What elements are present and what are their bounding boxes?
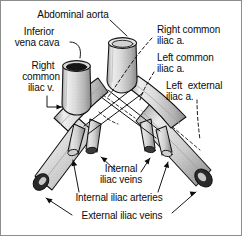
label-right-common-iliac-v-line1: Right	[12, 60, 74, 71]
label-external-iliac-veins: External iliac veins	[64, 210, 180, 221]
label-right-common-iliac-a-line2: iliac a.	[157, 35, 185, 46]
leader-left-external-iliac-a	[197, 100, 200, 140]
label-internal-iliac-arteries: Internal iliac arteries	[55, 192, 183, 203]
label-left-external-iliac-a-line2: iliac a.	[166, 91, 194, 102]
label-inferior-vena-cava-line1: Inferior	[8, 26, 70, 37]
label-internal-iliac-veins-line1: Internal	[95, 163, 147, 174]
anatomy-figure: Abdominal aorta Inferior vena cava Right…	[0, 0, 243, 237]
label-left-common-iliac-a-line2: iliac a.	[157, 63, 185, 74]
label-right-common-iliac-a-line1: Right common	[157, 24, 220, 35]
leader-right-common-iliac-v	[47, 96, 62, 107]
leader-abdominal-aorta	[110, 20, 127, 36]
label-inferior-vena-cava-line2: vena cava	[2, 37, 72, 48]
label-internal-iliac-veins-line2: iliac veins	[88, 174, 154, 185]
label-left-external-iliac-a-line1: Left external	[166, 80, 222, 91]
label-left-common-iliac-a-line1: Left common	[157, 52, 214, 63]
label-abdominal-aorta: Abdominal aorta	[28, 9, 118, 20]
label-right-common-iliac-v-line3: iliac v.	[10, 82, 72, 93]
label-right-common-iliac-v-line2: common	[5, 71, 77, 82]
